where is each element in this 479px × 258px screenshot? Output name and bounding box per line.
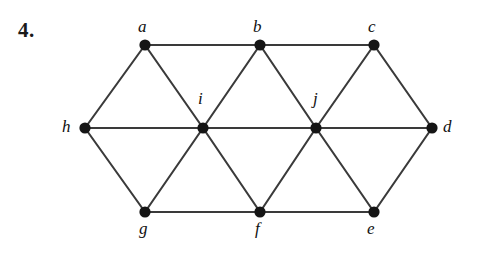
vertex-label-b: b <box>253 18 262 35</box>
vertex-label-d: d <box>443 118 452 135</box>
vertex-label-g: g <box>139 220 148 237</box>
vertex-label-f: f <box>255 220 260 237</box>
graph-edge-h-a <box>85 45 145 128</box>
graph-edge-c-j <box>316 45 374 128</box>
figure-root: 4. abcdefghij <box>0 0 479 258</box>
graph-edge-f-j <box>260 128 316 212</box>
graph-vertex-i <box>197 122 208 133</box>
graph-edge-d-e <box>374 128 432 212</box>
graph-vertex-f <box>254 206 265 217</box>
graph-vertex-b <box>254 39 265 50</box>
graph-vertex-c <box>368 39 379 50</box>
vertex-label-i: i <box>198 90 203 107</box>
graph-edge-f-i <box>203 128 260 212</box>
vertex-label-h: h <box>62 118 71 135</box>
graph-edge-b-j <box>260 45 316 128</box>
graph-vertex-a <box>139 39 150 50</box>
graph-edge-a-i <box>145 45 203 128</box>
graph-diagram <box>0 0 479 258</box>
graph-vertex-h <box>79 122 90 133</box>
graph-vertex-g <box>139 206 150 217</box>
graph-vertex-e <box>368 206 379 217</box>
graph-vertex-j <box>310 122 321 133</box>
graph-vertex-d <box>426 122 437 133</box>
graph-edge-g-i <box>145 128 203 212</box>
graph-edge-b-i <box>203 45 260 128</box>
edge-layer <box>85 45 432 212</box>
vertex-label-c: c <box>368 18 376 35</box>
graph-edge-e-j <box>316 128 374 212</box>
vertex-label-j: j <box>313 90 318 107</box>
graph-edge-c-d <box>374 45 432 128</box>
vertex-label-e: e <box>367 220 375 237</box>
graph-edge-g-h <box>85 128 145 212</box>
vertex-label-a: a <box>138 18 147 35</box>
